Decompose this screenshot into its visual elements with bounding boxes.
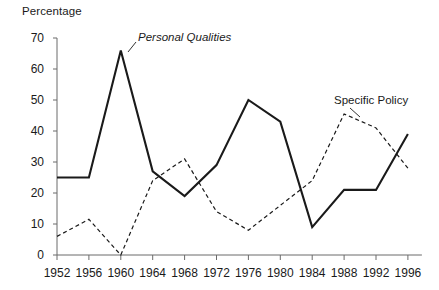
series-line-specific-policy: [57, 114, 408, 255]
annotation-leader-personal-qualities: [128, 42, 136, 52]
series-annotation-personal-qualities: Personal Qualities: [138, 31, 231, 43]
data-series: [57, 42, 408, 255]
series-annotation-specific-policy: Specific Policy: [334, 94, 408, 106]
plot-area: [0, 0, 439, 290]
line-chart: Percentage 010203040506070 1952195619601…: [0, 0, 439, 290]
series-line-personal-qualities: [57, 50, 408, 227]
axes: [53, 38, 422, 260]
annotation-leader-specific-policy: [350, 108, 360, 117]
